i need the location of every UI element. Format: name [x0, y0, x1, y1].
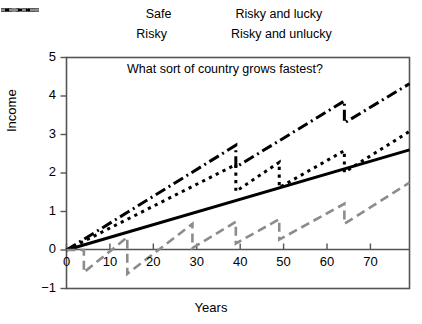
x-tick-label: 20: [144, 254, 162, 269]
x-tick-label: 70: [361, 254, 379, 269]
x-tick-label: 60: [318, 254, 336, 269]
series-line-risky: [67, 131, 410, 250]
y-tick-label: 2: [34, 164, 56, 179]
x-tick-label: 0: [58, 254, 76, 269]
chart-figure: Safe Risky and lucky Risky: [0, 0, 422, 324]
y-tick-label: 1: [34, 203, 56, 218]
y-tick-label: 5: [34, 49, 56, 64]
x-tick-label: 30: [188, 254, 206, 269]
y-tick-label: 3: [34, 126, 56, 141]
x-tick-label: 10: [101, 254, 119, 269]
plot-area: [0, 0, 422, 324]
y-tick-label: 4: [34, 87, 56, 102]
y-tick-label: −1: [34, 280, 56, 295]
x-tick-label: 40: [231, 254, 249, 269]
series-line-safe: [67, 150, 410, 250]
y-tick-label: 0: [34, 241, 56, 256]
data-series-group: [67, 84, 410, 274]
x-tick-label: 50: [275, 254, 293, 269]
series-line-risky-and-lucky: [67, 84, 410, 250]
